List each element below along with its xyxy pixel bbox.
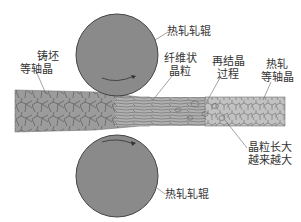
metal-strip [15, 90, 285, 132]
label-hot-l2: 等轴晶 [261, 71, 294, 84]
diagram-graphics [0, 0, 301, 222]
label-recryst-l1: 再结晶 [212, 55, 245, 68]
label-fiber-l2: 晶粒 [169, 65, 191, 78]
label-growth-l1: 晶粒长大 [248, 141, 292, 154]
top-roller [76, 14, 158, 96]
label-cast-l2: 等轴晶 [20, 63, 53, 76]
bottom-roller [76, 135, 158, 217]
label-cast-l1: 铸坯 [37, 50, 59, 63]
label-fiber-l1: 纤维状 [164, 52, 197, 65]
label-recryst-l2: 过程 [217, 68, 239, 81]
label-top-roller: 热轧轧辊 [167, 25, 211, 38]
label-bottom-roller: 热轧轧辊 [165, 188, 209, 201]
label-growth-l2: 越来越大 [248, 154, 292, 167]
rolling-diagram: 热轧轧辊 铸坯 等轴晶 纤维状 晶粒 再结晶 过程 热轧 等轴晶 晶粒长大 越来… [0, 0, 301, 222]
label-hot-l1: 热轧 [266, 58, 288, 71]
